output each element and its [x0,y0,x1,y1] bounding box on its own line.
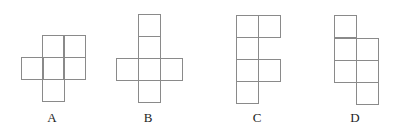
net-square [139,37,161,59]
cube-nets-diagram: A B C D [0,0,394,137]
net-square [237,60,259,82]
net-square [357,61,379,83]
figure-a-cells [22,36,86,102]
net-square [335,39,357,61]
net-square [43,36,65,58]
net-square [117,59,139,81]
net-square [22,58,44,80]
figure-d-label: D [350,110,359,125]
net-square [335,61,357,83]
net-square [357,39,379,61]
net-square [43,80,65,102]
figure-c: C [237,16,281,126]
figure-b: B [117,15,183,126]
net-square [237,38,259,60]
net-square [139,15,161,37]
figure-a: A [22,36,86,126]
figure-c-cells [237,16,281,104]
figure-b-cells [117,15,183,103]
net-square [139,59,161,81]
net-square [64,58,86,80]
figure-b-label: B [144,110,153,125]
figure-d: D [335,16,379,126]
net-square [259,60,281,82]
net-square [237,16,259,38]
net-square [259,16,281,38]
net-square [64,36,86,58]
net-square [357,83,379,105]
net-square [139,81,161,103]
net-square [43,58,65,80]
net-square [237,82,259,104]
net-square [335,16,357,38]
figure-a-label: A [47,110,57,125]
figure-c-label: C [253,110,262,125]
net-square [161,59,183,81]
figure-d-cells [335,16,379,105]
